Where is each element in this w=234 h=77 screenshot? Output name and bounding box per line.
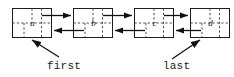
node-d-label: d: [208, 18, 213, 28]
node-b: b: [74, 9, 113, 38]
pointer-first-arrow: [32, 40, 59, 57]
pointer-last-arrow: [172, 40, 200, 59]
node-a-label: a: [30, 18, 35, 28]
node-a: a: [13, 9, 52, 38]
node-b-label: b: [91, 18, 96, 28]
node-d: d: [191, 9, 230, 38]
node-c-label: c: [153, 18, 157, 28]
pointer-last-label: last: [163, 60, 190, 72]
diagram-canvas: a b c d: [0, 0, 234, 77]
pointer-first-label: first: [47, 60, 81, 72]
linked-list-figure: a b c d: [0, 0, 234, 77]
node-c: c: [135, 9, 174, 38]
